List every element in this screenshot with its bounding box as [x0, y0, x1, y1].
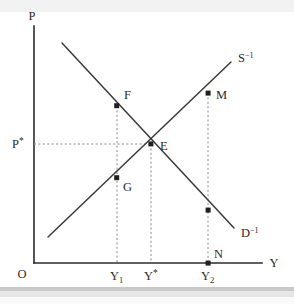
point-N-label: N	[214, 247, 223, 261]
supply-demand-chart: P Y O S−1 D−1 F G E M N P* Y1 Y* Y2	[0, 0, 294, 304]
point-G-label: G	[123, 180, 132, 194]
point-N-marker	[206, 261, 211, 266]
point-F-marker	[114, 103, 119, 108]
point-demand-lower-marker	[206, 208, 211, 213]
y-star-tick-base: Y	[144, 269, 153, 283]
point-M-label: M	[216, 88, 227, 102]
y1-tick-sub: 1	[119, 275, 123, 285]
point-G-marker	[114, 175, 119, 180]
supply-curve-label-base: S	[238, 51, 245, 65]
origin-label: O	[17, 267, 26, 281]
price-star-tick-mark: *	[19, 136, 24, 146]
price-star-tick-label: P*	[12, 136, 24, 151]
demand-curve-label-base: D	[241, 226, 250, 240]
price-star-tick-base: P	[12, 137, 19, 151]
y-star-tick-label: Y*	[144, 268, 158, 283]
point-E-marker	[148, 141, 153, 146]
supply-curve-label: S−1	[238, 51, 253, 65]
y1-tick-base: Y	[110, 269, 119, 283]
y2-tick-base: Y	[201, 269, 210, 283]
supply-curve	[48, 62, 231, 237]
page-bottom-band-light	[0, 297, 294, 304]
y2-tick-sub: 2	[210, 275, 214, 285]
point-M-marker	[206, 91, 211, 96]
demand-curve-label: D−1	[241, 226, 259, 240]
point-F-label: F	[124, 88, 131, 102]
y2-tick-label: Y2	[201, 269, 214, 285]
y-star-tick-mark: *	[153, 268, 158, 278]
supply-curve-label-exponent: −1	[245, 51, 254, 60]
demand-curve	[62, 43, 234, 228]
point-E-label: E	[160, 139, 168, 153]
demand-curve-label-exponent: −1	[250, 226, 259, 235]
y1-tick-label: Y1	[110, 269, 123, 285]
output-axis-label: Y	[269, 256, 278, 270]
price-axis-label: P	[29, 9, 36, 23]
figure-container: P Y O S−1 D−1 F G E M N P* Y1 Y* Y2	[0, 0, 294, 304]
